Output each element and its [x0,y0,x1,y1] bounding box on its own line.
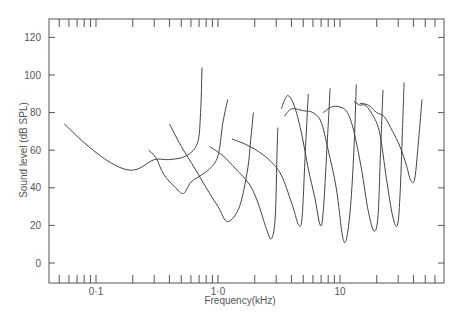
y-tick-label: 40 [30,182,42,193]
tuning-curve-chart: 020406080100120 0·11·010 Frequency(kHz) … [0,0,462,321]
axis-ticks [49,19,444,283]
tuning-curve-2 [149,99,228,193]
y-tick-label: 0 [35,258,41,269]
y-tick-label: 80 [30,107,42,118]
tuning-curve-10 [360,99,422,182]
tuning-curves [64,68,422,243]
y-tick-label: 120 [24,32,41,43]
y-tick-label: 20 [30,220,42,231]
tuning-curve-6 [281,88,330,226]
x-tick-label: 10 [334,286,346,297]
y-tick-label: 60 [30,145,42,156]
x-tick-label: 0·1 [89,286,104,297]
plot-frame [49,19,444,283]
x-axis-label: Frequency(kHz) [204,295,275,306]
y-tick-label: 100 [24,70,41,81]
y-axis-label: Sound level (dB SPL) [18,102,29,198]
tuning-curve-1 [64,68,202,171]
